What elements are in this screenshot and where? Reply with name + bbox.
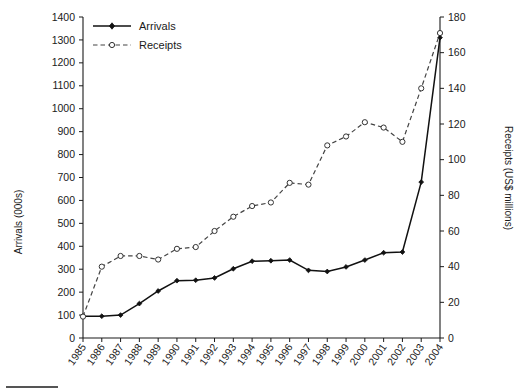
data-point-arrivals-1991 [193,278,198,283]
x-tick-label: 2002 [384,341,407,367]
left-tick-label: 1200 [52,56,76,68]
left-tick-label: 300 [57,263,75,275]
legend-label-receipts: Receipts [139,39,182,51]
left-tick-label: 800 [57,148,75,160]
x-tick-label: 1999 [328,341,351,367]
left-axis-ticks: 0100200300400500600700800900100011001200… [52,11,83,344]
data-point-arrivals-1995 [268,258,273,263]
x-tick-label: 1994 [234,341,257,367]
left-axis-title: Arrivals (000s) [13,190,24,254]
data-point-receipts-1988 [137,253,142,258]
left-tick-label: 1400 [52,11,76,23]
x-tick-label: 1998 [309,341,332,367]
data-point-receipts-1991 [193,244,198,249]
x-tick-label: 1997 [290,341,313,367]
left-tick-label: 1000 [52,102,76,114]
x-tick-label: 1995 [253,341,276,367]
left-tick-label: 0 [69,332,75,344]
data-point-receipts-1996 [287,180,292,185]
data-point-receipts-2002 [400,139,405,144]
right-tick-label: 100 [448,153,466,165]
tourism-arrivals-receipts-chart: 0100200300400500600700800900100011001200… [0,0,521,390]
data-point-receipts-1990 [174,246,179,251]
data-point-arrivals-1994 [250,259,255,264]
left-tick-label: 200 [57,286,75,298]
data-point-receipts-1992 [212,228,217,233]
x-tick-label: 1993 [215,341,238,367]
data-point-arrivals-2001 [381,250,386,255]
x-tick-label: 2001 [366,341,389,367]
x-tick-label: 1991 [178,341,201,367]
right-tick-label: 60 [448,225,460,237]
right-tick-label: 140 [448,82,466,94]
data-point-arrivals-1986 [99,314,104,319]
data-point-receipts-1987 [118,253,123,258]
right-axis-ticks: 020406080100120140160180 [440,11,466,344]
data-point-arrivals-2003 [419,180,424,185]
x-tick-label: 1985 [65,341,88,367]
left-tick-label: 1100 [52,79,75,91]
chart-svg: 0100200300400500600700800900100011001200… [0,0,521,390]
x-tick-label: 2004 [422,341,445,367]
left-tick-label: 600 [57,194,75,206]
right-tick-label: 20 [448,296,460,308]
series-line-arrivals [83,38,440,317]
data-point-receipts-1997 [306,182,311,187]
data-point-receipts-1998 [325,143,330,148]
left-tick-label: 1300 [52,34,76,46]
left-tick-label: 900 [57,125,75,137]
left-tick-label: 700 [57,171,75,183]
data-point-arrivals-2000 [362,258,367,263]
x-tick-label: 1990 [159,341,182,367]
right-tick-label: 40 [448,260,460,272]
right-tick-label: 120 [448,118,466,130]
legend-item-arrivals: Arrivals [93,20,176,32]
data-point-receipts-2001 [381,125,386,130]
legend-marker-receipts [109,42,114,47]
x-tick-label: 2003 [403,341,426,367]
left-tick-label: 500 [57,217,75,229]
right-tick-label: 0 [448,332,454,344]
right-axis-title: Receipts (US$ millions) [503,126,514,230]
x-tick-label: 1989 [140,341,163,367]
data-point-arrivals-1992 [212,276,217,281]
legend-marker-arrivals [109,23,114,29]
data-point-receipts-1985 [80,314,85,319]
x-tick-label: 1996 [272,341,295,367]
left-tick-label: 400 [57,240,75,252]
data-point-receipts-1999 [343,134,348,139]
series-layer [80,30,442,319]
series-line-receipts [83,33,440,317]
legend: Arrivals Receipts [93,20,182,51]
right-tick-label: 180 [448,11,466,23]
data-point-receipts-2004 [437,30,442,35]
legend-item-receipts: Receipts [93,39,182,51]
data-point-arrivals-1993 [231,266,236,271]
data-point-receipts-2000 [362,120,367,125]
data-point-receipts-1993 [231,214,236,219]
right-tick-label: 80 [448,189,460,201]
right-tick-label: 160 [448,46,466,58]
data-point-arrivals-1998 [325,269,330,274]
data-point-receipts-1994 [250,203,255,208]
x-tick-label: 1987 [102,341,125,367]
x-axis-ticks: 1985198619871988198919901991199219931994… [65,338,445,367]
data-point-arrivals-2002 [400,250,405,255]
data-point-receipts-1989 [156,257,161,262]
data-point-receipts-1995 [268,200,273,205]
plot-area [83,17,440,338]
x-tick-label: 1992 [196,341,219,367]
x-tick-label: 2000 [347,341,370,367]
x-tick-label: 1986 [84,341,107,367]
legend-label-arrivals: Arrivals [139,20,176,32]
data-point-receipts-1986 [99,264,104,269]
left-tick-label: 100 [57,309,75,321]
data-point-arrivals-1999 [344,265,349,270]
data-point-receipts-2003 [419,86,424,91]
x-tick-label: 1988 [121,341,144,367]
caption-rule [6,386,58,388]
